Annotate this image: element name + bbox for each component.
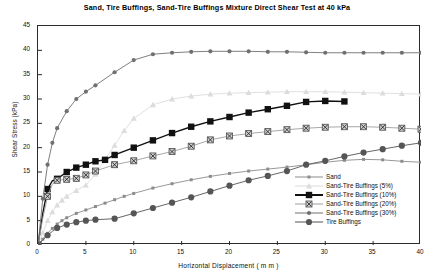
y-tick-label: 5 <box>8 216 30 223</box>
legend-item[interactable]: Sand-Tire Buffings (10%) <box>295 190 396 199</box>
chart-figure: Sand, Tire Buffings, Sand-Tire Buffings … <box>0 0 434 279</box>
legend-label: Sand-Tire Buffings (20%) <box>326 199 396 208</box>
y-tick-label: 10 <box>8 191 30 198</box>
x-tick-label: 0 <box>25 248 49 255</box>
legend-key-tiny-circle-icon <box>295 208 323 217</box>
legend-item[interactable]: Sand-Tire Buffings (20%) <box>295 199 396 208</box>
legend-key-boxed-x-icon <box>295 199 323 208</box>
y-tick-label: 0 <box>8 240 30 247</box>
x-tick-label: 15 <box>169 248 193 255</box>
legend-key-triangle-icon <box>295 181 323 190</box>
legend-key-small-square-icon <box>295 172 323 181</box>
legend-item[interactable]: Sand-Tire Buffings (30%) <box>295 208 396 217</box>
legend-label: Sand-Tire Buffings (30%) <box>326 208 396 217</box>
legend-item[interactable]: Tire Buffings <box>295 217 396 226</box>
x-tick-label: 30 <box>312 248 336 255</box>
x-tick-label: 20 <box>217 248 241 255</box>
legend-item[interactable]: Sand <box>295 172 396 181</box>
y-tick-label: 45 <box>8 21 30 28</box>
x-axis-title: Horizontal Displacement ( m m ) <box>37 262 420 269</box>
legend-label: Sand-Tire Buffings (5%) <box>326 181 393 190</box>
legend-key-filled-circle-icon <box>295 218 323 227</box>
y-tick-label: 35 <box>8 70 30 77</box>
x-tick-label: 25 <box>264 248 288 255</box>
y-tick-label: 40 <box>8 45 30 52</box>
legend-label: Tire Buffings <box>326 217 361 226</box>
y-axis-title: Shear Stress (kPa) <box>11 80 18 180</box>
chart-title: Sand, Tire Buffings, Sand-Tire Buffings … <box>0 3 434 12</box>
x-tick-label: 40 <box>408 248 432 255</box>
x-tick-label: 5 <box>73 248 97 255</box>
x-tick-label: 10 <box>121 248 145 255</box>
legend-item[interactable]: Sand-Tire Buffings (5%) <box>295 181 396 190</box>
legend-label: Sand-Tire Buffings (10%) <box>326 190 396 199</box>
legend-key-big-square-icon <box>295 190 323 199</box>
legend-label: Sand <box>326 172 341 181</box>
x-tick-label: 35 <box>360 248 384 255</box>
chart-legend: SandSand-Tire Buffings (5%)Sand-Tire Buf… <box>295 172 396 227</box>
